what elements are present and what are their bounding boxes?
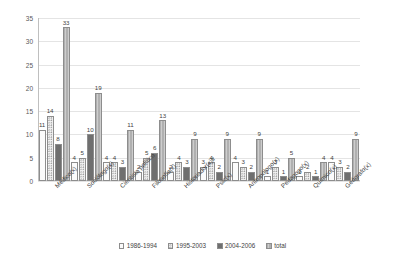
bar-value-label: 2 <box>250 164 253 170</box>
bar-column: 4 <box>71 18 78 181</box>
bar-value-label: 1 <box>314 169 317 175</box>
bar-column: 2 <box>135 18 142 181</box>
bar-value-label: 3 <box>185 159 188 165</box>
bar-column: 9 <box>224 18 231 181</box>
bar-column: 13 <box>159 18 166 181</box>
bar-column: 33 <box>63 18 70 181</box>
bar-column: 9 <box>352 18 359 181</box>
bar-value-label: 6 <box>153 145 156 151</box>
legend-swatch-icon <box>119 243 125 249</box>
bar[interactable] <box>47 116 54 181</box>
bar-column: 1 <box>296 18 303 181</box>
bar-value-label: 5 <box>290 150 293 156</box>
bar-group: 4329 <box>231 18 263 181</box>
bar-value-label: 9 <box>193 131 196 137</box>
x-axis-category-labels: Médico(x)Sociólogo(x)Cientista políticoF… <box>38 183 360 229</box>
bar-value-label: 11 <box>127 122 133 128</box>
bar-column: 4 <box>103 18 110 181</box>
x-axis-category-label: Médico(x) <box>54 185 58 189</box>
bar-chart: 05101520253035 1114833451019443112561324… <box>0 0 405 261</box>
bar-column: 10 <box>87 18 94 181</box>
bar[interactable] <box>79 158 86 181</box>
bar-group: 1315 <box>263 18 295 181</box>
bar[interactable] <box>272 167 279 181</box>
bar-value-label: 9 <box>354 131 357 137</box>
bar-value-label: 9 <box>225 131 228 137</box>
bar-value-label: 13 <box>159 113 166 119</box>
bar-value-label: 9 <box>258 131 261 137</box>
bar[interactable] <box>336 167 343 181</box>
y-axis-tick-label: 20 <box>26 84 33 91</box>
bar-group: 2439 <box>167 18 199 181</box>
bar-column: 19 <box>95 18 102 181</box>
bar-column: 1 <box>312 18 319 181</box>
x-axis-category-label: Geógrafo(x) <box>344 185 348 189</box>
legend-item[interactable]: total <box>266 243 286 249</box>
bar-column: 4 <box>320 18 327 181</box>
legend-item[interactable]: 1995-2003 <box>168 243 206 249</box>
bar-group: 4329 <box>328 18 360 181</box>
bar-value-label: 2 <box>217 164 220 170</box>
bar-column: 3 <box>183 18 190 181</box>
bar-column: 5 <box>79 18 86 181</box>
bar-column: 11 <box>127 18 134 181</box>
bar-value-label: 19 <box>95 85 102 91</box>
legend-item[interactable]: 1986-1994 <box>119 243 157 249</box>
plot-area: 05101520253035 1114833451019443112561324… <box>38 18 360 181</box>
bar[interactable] <box>87 134 94 181</box>
y-axis-tick-label: 10 <box>26 131 33 138</box>
bar-value-label: 4 <box>330 155 333 161</box>
bar-column: 3 <box>240 18 247 181</box>
bar-value-label: 3 <box>121 159 124 165</box>
bar-group: 1214 <box>296 18 328 181</box>
bar[interactable] <box>232 162 239 181</box>
bar[interactable] <box>264 176 271 181</box>
y-axis-tick-label: 5 <box>29 154 33 161</box>
legend-swatch-icon <box>217 243 223 249</box>
bar-value-label: 5 <box>81 150 84 156</box>
bar-column: 5 <box>288 18 295 181</box>
bar-groups: 1114833451019443112561324393429432913151… <box>38 18 360 181</box>
x-axis-category-label: Cientista político <box>119 185 123 189</box>
bar-column: 4 <box>328 18 335 181</box>
bar-column: 11 <box>39 18 46 181</box>
bar-value-label: 4 <box>177 155 180 161</box>
legend-label: 1995-2003 <box>176 243 206 249</box>
y-axis-tick-label: 0 <box>29 178 33 185</box>
bar-column: 3 <box>200 18 207 181</box>
bar-group: 3429 <box>199 18 231 181</box>
x-axis-category-label: Sociólogo(x) <box>86 185 90 189</box>
y-axis-tick-label: 30 <box>26 38 33 45</box>
bar[interactable] <box>240 167 247 181</box>
bar-column: 4 <box>175 18 182 181</box>
bar-column: 14 <box>47 18 54 181</box>
bar-group: 451019 <box>70 18 102 181</box>
bar[interactable] <box>296 176 303 181</box>
bar-value-label: 4 <box>73 155 76 161</box>
x-axis-category-label: Químico(x) <box>312 185 316 189</box>
y-axis-tick-label: 15 <box>26 108 33 115</box>
bar-column: 8 <box>55 18 62 181</box>
x-axis-category-label: Filosofía(x) <box>151 185 155 189</box>
bar-value-label: 4 <box>234 155 237 161</box>
legend-swatch-icon <box>168 243 174 249</box>
bar-group: 1114833 <box>38 18 70 181</box>
bar-group: 44311 <box>102 18 134 181</box>
bar-value-label: 11 <box>39 122 45 128</box>
bar-value-label: 1 <box>282 169 285 175</box>
x-axis-category-label: Psic(x) <box>215 185 219 189</box>
bar[interactable] <box>39 130 46 181</box>
legend-item[interactable]: 2004-2006 <box>217 243 255 249</box>
legend-swatch-icon <box>266 243 272 249</box>
chart-legend: 1986-19941995-20032004-2006total <box>0 243 405 249</box>
bar-value-label: 3 <box>338 159 341 165</box>
bar-column: 2 <box>344 18 351 181</box>
x-axis-category-label: Historiador(x)lr <box>183 185 187 189</box>
legend-label: 1986-1994 <box>127 243 157 249</box>
bar[interactable] <box>304 172 311 181</box>
bar[interactable] <box>175 162 182 181</box>
bar-value-label: 4 <box>113 155 116 161</box>
bar[interactable] <box>63 27 70 181</box>
bar-column: 4 <box>111 18 118 181</box>
bar-value-label: 10 <box>87 127 94 133</box>
